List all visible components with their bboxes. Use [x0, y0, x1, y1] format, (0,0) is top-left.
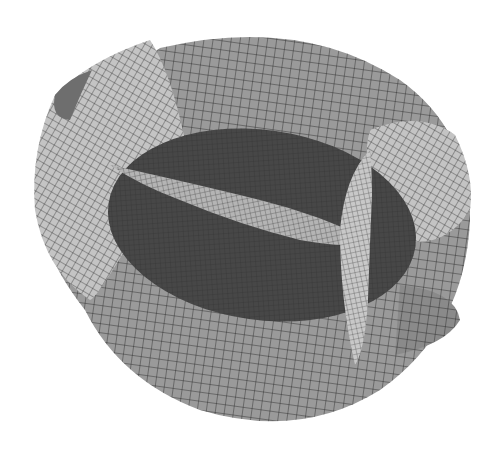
wireframe-surface-figure — [0, 0, 497, 452]
